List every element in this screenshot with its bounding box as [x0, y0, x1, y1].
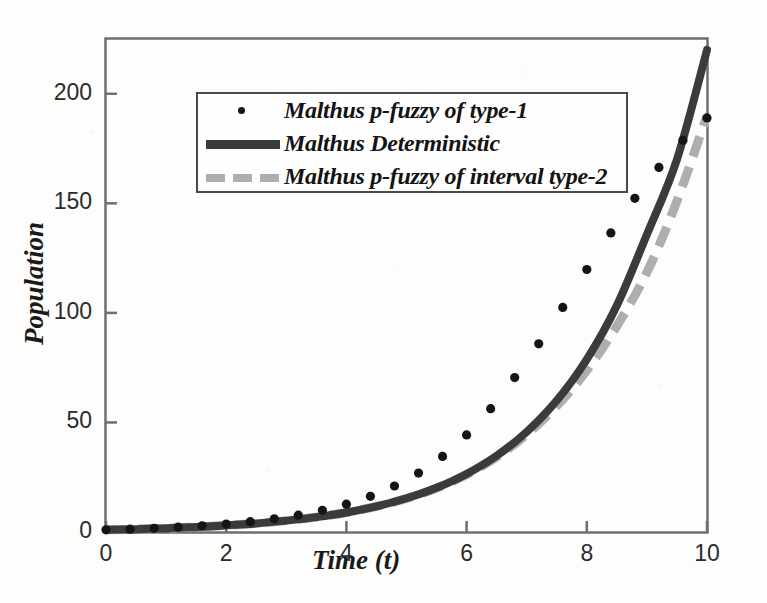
legend-label-type-1: Malthus p-fuzzy of type-1: [284, 97, 528, 124]
legend-key-solid-line: [198, 127, 284, 160]
legend-key-dashed-line: [198, 160, 284, 193]
data-point-marker: [438, 452, 447, 461]
legend-entry-interval-type-2: Malthus p-fuzzy of interval type-2: [198, 160, 626, 193]
data-point-marker: [294, 511, 303, 520]
x-tick-label: 8: [551, 540, 623, 567]
data-point-marker: [606, 228, 615, 237]
data-point-marker: [174, 523, 183, 532]
dashed-line-icon: [206, 174, 280, 182]
data-point-marker: [486, 404, 495, 413]
data-point-marker: [270, 514, 279, 523]
data-point-marker: [390, 481, 399, 490]
data-point-marker: [510, 373, 519, 382]
x-tick-label: 0: [70, 540, 142, 567]
data-point-marker: [678, 136, 687, 145]
data-point-marker: [630, 194, 639, 203]
data-point-marker: [654, 163, 663, 172]
dot-marker-icon: [238, 107, 245, 114]
data-point-marker: [101, 525, 110, 534]
data-point-marker: [702, 113, 711, 122]
legend-label-deterministic: Malthus Deterministic: [284, 130, 500, 157]
legend-label-interval-type-2: Malthus p-fuzzy of interval type-2: [284, 163, 607, 190]
malthus-population-chart: Population Time (t) 0501001502000246810 …: [0, 0, 767, 603]
x-tick-label: 10: [671, 540, 743, 567]
data-point-marker: [222, 520, 231, 529]
data-point-marker: [534, 339, 543, 348]
y-axis-ticks: [106, 94, 117, 532]
data-point-marker: [149, 524, 158, 533]
legend-entry-type-1: Malthus p-fuzzy of type-1: [198, 94, 626, 127]
plot-canvas: [0, 0, 767, 603]
data-point-marker: [414, 468, 423, 477]
data-point-marker: [462, 430, 471, 439]
y-tick-label: 50: [20, 407, 92, 434]
legend-entry-deterministic: Malthus Deterministic: [198, 127, 626, 160]
data-point-marker: [558, 303, 567, 312]
x-tick-label: 2: [190, 540, 262, 567]
y-axis-title: Population: [19, 204, 50, 364]
data-point-marker: [318, 506, 327, 515]
legend: Malthus p-fuzzy of type-1 Malthus Determ…: [196, 92, 628, 193]
data-point-marker: [342, 500, 351, 509]
data-point-marker: [246, 517, 255, 526]
y-tick-label: 100: [20, 298, 92, 325]
x-tick-label: 6: [431, 540, 503, 567]
solid-line-icon: [206, 140, 280, 149]
data-point-marker: [582, 265, 591, 274]
data-point-marker: [366, 492, 375, 501]
data-point-marker: [198, 521, 207, 530]
x-tick-label: 4: [310, 540, 382, 567]
y-tick-label: 200: [20, 79, 92, 106]
y-tick-label: 150: [20, 188, 92, 215]
legend-key-dot-marker: [198, 94, 284, 127]
data-point-marker: [125, 525, 134, 534]
